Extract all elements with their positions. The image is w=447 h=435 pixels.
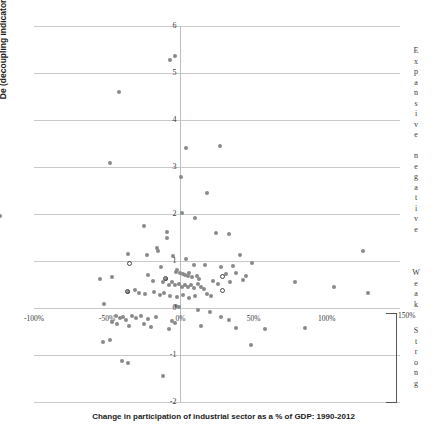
data-point	[101, 340, 105, 344]
y-tick-label: -2	[160, 398, 176, 406]
data-point	[156, 249, 160, 253]
zone-label-char: E	[404, 46, 428, 57]
data-point	[227, 232, 231, 236]
data-point	[209, 294, 213, 298]
gridline-y	[34, 308, 400, 309]
data-point	[211, 279, 215, 283]
strong-zone-bracket	[386, 313, 397, 403]
data-point	[108, 161, 112, 165]
data-point	[196, 308, 200, 312]
data-point	[146, 317, 150, 321]
data-point	[214, 231, 218, 235]
data-point	[133, 288, 137, 292]
gridline-y	[34, 26, 400, 27]
y-tick-label: 2	[160, 210, 176, 218]
zone-label-char: e	[404, 130, 428, 141]
zone-label-char: r	[404, 347, 428, 358]
zone-label-weak: Weak	[404, 268, 428, 310]
zone-label-strong: Strong	[404, 326, 428, 389]
zone-label-char: e	[404, 162, 428, 173]
data-point	[127, 324, 131, 328]
data-point	[263, 327, 267, 331]
data-point	[177, 305, 181, 309]
data-point	[108, 338, 112, 342]
data-point	[158, 293, 162, 297]
data-point	[161, 374, 165, 378]
data-point	[0, 214, 2, 218]
zone-label-char: e	[404, 225, 428, 236]
data-point	[137, 291, 141, 295]
data-point	[168, 58, 172, 62]
data-point	[151, 279, 155, 283]
zone-label-char: e	[404, 279, 428, 290]
data-point	[193, 294, 197, 298]
data-point	[332, 285, 336, 289]
data-point	[231, 264, 235, 268]
zone-label-char: n	[404, 368, 428, 379]
data-point	[143, 292, 147, 296]
zone-label-char: i	[404, 204, 428, 215]
data-point	[146, 273, 150, 277]
zone-label-expansive-negative: Expansive negative	[404, 46, 428, 235]
zone-label-char: s	[404, 99, 428, 110]
gridline-y	[34, 73, 400, 74]
data-point	[145, 253, 149, 257]
data-point	[228, 280, 232, 284]
gridline-y	[34, 355, 400, 356]
data-point	[187, 296, 191, 300]
data-point	[208, 310, 212, 314]
data-point	[227, 318, 231, 322]
data-point	[218, 144, 222, 148]
data-point	[98, 277, 102, 281]
data-point	[162, 291, 166, 295]
zone-label-char: i	[404, 109, 428, 120]
data-point	[366, 291, 370, 295]
zone-label-char: v	[404, 214, 428, 225]
data-point	[149, 325, 153, 329]
data-point	[134, 316, 138, 320]
data-point	[163, 276, 168, 281]
zone-label-char: x	[404, 57, 428, 68]
data-point	[110, 275, 114, 279]
data-point	[234, 271, 238, 275]
x-tick-label: 100%	[310, 315, 344, 323]
zone-label-char: S	[404, 326, 428, 337]
y-tick-label: 0	[160, 304, 176, 312]
data-point	[241, 278, 245, 282]
zone-label-char: g	[404, 379, 428, 390]
data-point	[199, 324, 203, 328]
gridline-y	[34, 402, 400, 403]
y-axis-title: De (decoupling indicator)	[0, 0, 8, 128]
data-point	[126, 361, 130, 365]
x-tick-label: -50%	[90, 315, 124, 323]
y-tick-label: 4	[160, 116, 176, 124]
data-point	[249, 343, 253, 347]
x-tick-150: 150%	[398, 311, 416, 320]
data-point	[142, 224, 146, 228]
x-tick-label: -100%	[17, 315, 51, 323]
data-point	[184, 257, 188, 261]
y-tick-label: 3	[160, 163, 176, 171]
x-tick-label: 0%	[163, 315, 197, 323]
zone-label-char: a	[404, 78, 428, 89]
plot-area	[34, 26, 400, 402]
zone-label-char: n	[404, 151, 428, 162]
y-tick-label: -1	[160, 351, 176, 359]
data-point	[192, 263, 196, 267]
data-point	[165, 236, 169, 240]
data-point	[192, 286, 196, 290]
data-point	[165, 230, 169, 234]
data-point	[124, 318, 128, 322]
data-point	[220, 274, 225, 279]
gridline-y	[34, 120, 400, 121]
zone-label-char: p	[404, 67, 428, 78]
y-tick-label: 1	[160, 257, 176, 265]
x-axis-title: Change in participation of industrial se…	[0, 412, 447, 421]
data-point	[139, 314, 143, 318]
gridline-y	[34, 261, 400, 262]
data-point	[120, 359, 124, 363]
data-point	[181, 293, 185, 297]
data-point	[142, 322, 146, 326]
x-tick-label: 50%	[237, 315, 271, 323]
data-point	[361, 249, 365, 253]
